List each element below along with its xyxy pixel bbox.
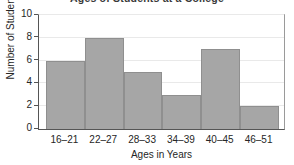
bar [201, 49, 240, 129]
plot-area [38, 14, 285, 130]
x-tick-label: 22–27 [84, 133, 123, 147]
chart-title: Ages of Students at a College [0, 0, 294, 5]
bar [162, 95, 201, 129]
y-tick-label: 4 [26, 76, 32, 88]
x-tick-label: 16–21 [45, 133, 84, 147]
x-tick-label: 34–39 [161, 133, 200, 147]
x-tick-label: 28–33 [123, 133, 162, 147]
bar [240, 106, 279, 129]
histogram-chart: Ages of Students at a College Number of … [0, 0, 294, 165]
y-axis-ticks: 0246810 [0, 0, 38, 131]
bar [124, 72, 163, 129]
y-tick-label: 2 [26, 99, 32, 111]
bar-series [46, 15, 279, 129]
bar [46, 61, 85, 129]
bar [85, 38, 124, 129]
x-tick-label: 46–51 [239, 133, 278, 147]
y-tick-label: 8 [26, 31, 32, 43]
x-axis-tick-labels: 16–2122–2728–3334–3940–4546–51 [45, 133, 278, 147]
y-tick-label: 0 [26, 122, 32, 134]
y-tick-label: 6 [26, 54, 32, 66]
y-tick-label: 10 [21, 8, 32, 20]
x-tick-label: 40–45 [200, 133, 239, 147]
x-axis-title: Ages in Years [38, 149, 285, 160]
